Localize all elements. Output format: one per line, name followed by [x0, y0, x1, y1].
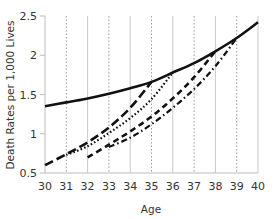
x-tick-label: 37: [187, 180, 201, 193]
x-tick-label: 35: [145, 180, 159, 193]
x-axis-title: Age: [141, 203, 161, 215]
y-axis-title: Death Rates per 1,000 Lives: [4, 20, 16, 169]
x-tick-label: 38: [208, 180, 222, 193]
x-tick-label: 34: [123, 180, 137, 193]
y-tick-label: 0.5: [20, 167, 38, 180]
y-tick-label: 2.5: [20, 10, 38, 23]
series-line-long-dash: [45, 82, 152, 165]
x-tick-label: 39: [230, 180, 244, 193]
x-tick-label: 30: [38, 180, 52, 193]
death-rates-chart: 0.511.522.5 3031323334353637383940 Age D…: [0, 0, 273, 219]
vertical-gridlines: [66, 16, 258, 173]
y-tick-label: 1: [30, 128, 37, 141]
y-axis-ticks: 0.511.522.5: [20, 10, 46, 180]
x-tick-label: 32: [81, 180, 95, 193]
x-tick-label: 36: [166, 180, 180, 193]
y-tick-label: 1.5: [20, 89, 38, 102]
x-tick-label: 40: [251, 180, 265, 193]
y-tick-label: 2: [30, 49, 37, 62]
x-tick-label: 33: [102, 180, 116, 193]
x-axis-ticks: 3031323334353637383940: [38, 180, 265, 193]
x-tick-label: 31: [59, 180, 73, 193]
